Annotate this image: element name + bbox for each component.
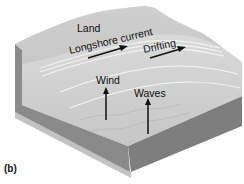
panel-label: (b) <box>4 163 17 174</box>
wind-label: Wind <box>96 74 120 86</box>
longshore-block-diagram: Land Longshore current Drifting Wind Wav… <box>0 0 244 184</box>
land-label: Land <box>77 22 101 34</box>
waves-label: Waves <box>134 87 166 99</box>
